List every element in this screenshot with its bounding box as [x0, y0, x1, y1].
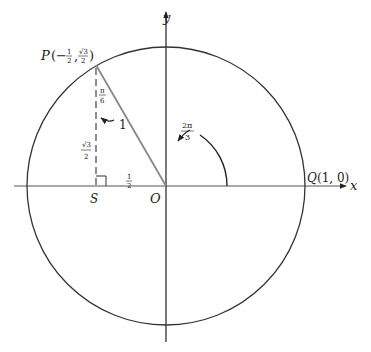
svg-text:): ) [89, 48, 94, 63]
svg-text:P: P [40, 48, 50, 63]
svg-text:2: 2 [84, 153, 88, 161]
svg-text:1: 1 [127, 173, 131, 181]
angle-arc-2pi-3 [200, 135, 227, 186]
svg-text:2: 2 [67, 57, 71, 65]
vertical-length-label: √3 2 [81, 141, 91, 161]
point-p-label: P (− 1 2 , √3 2 ) [40, 48, 94, 65]
y-axis-label: y [162, 10, 171, 25]
svg-text:√3: √3 [79, 48, 88, 56]
svg-text:,: , [74, 48, 78, 63]
svg-text:3: 3 [185, 133, 190, 142]
svg-text:2π: 2π [182, 121, 192, 130]
x-axis-label: x [350, 178, 358, 193]
svg-text:2: 2 [127, 182, 131, 190]
angle-pi-6-label: π 6 [99, 87, 106, 105]
svg-text:1: 1 [67, 48, 71, 56]
radius-op [96, 65, 166, 186]
angle-arc-pi-6 [101, 118, 114, 121]
svg-text:2: 2 [81, 57, 85, 65]
svg-text:√3: √3 [82, 141, 91, 149]
svg-text:π: π [100, 87, 105, 95]
unit-circle-diagram: y x O S Q (1, 0) P (− 1 2 , √3 2 ) 1 π 6… [0, 0, 371, 352]
svg-text:6: 6 [100, 97, 105, 105]
hypotenuse-label: 1 [119, 118, 127, 132]
foot-label-s: S [90, 192, 98, 206]
point-q-label: Q (1, 0) [307, 171, 349, 185]
horizontal-length-label: 1 2 [126, 173, 132, 190]
svg-text:(−: (− [51, 48, 67, 63]
svg-text:Q: Q [307, 171, 317, 185]
right-angle-marker [96, 176, 106, 186]
origin-label: O [150, 191, 161, 206]
svg-text:(1, 0): (1, 0) [317, 171, 349, 185]
